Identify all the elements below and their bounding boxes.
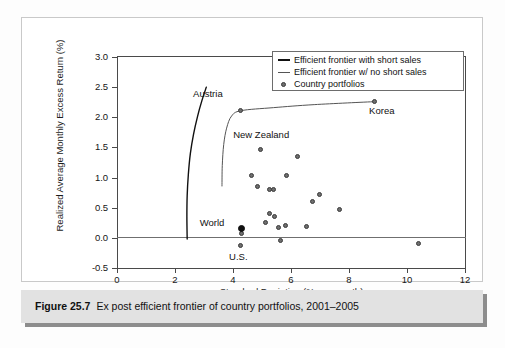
- x-axis-tick-label: 12: [453, 274, 477, 285]
- legend-item-frontier_short_sales: Efficient frontier with short sales: [277, 54, 459, 66]
- chart-panel: -0.50.00.51.01.52.02.53.0 024681012 Stan…: [21, 17, 483, 282]
- point-annotation: World: [200, 217, 225, 228]
- x-axis-tick-label: 2: [163, 274, 187, 285]
- y-axis-tick-label: 0.0: [78, 232, 108, 243]
- x-axis-tick: [349, 268, 350, 273]
- data-point-country: [238, 243, 243, 248]
- legend-item-country_portfolios: Country portfolios: [277, 78, 459, 90]
- data-point-country: [372, 99, 377, 104]
- chart-legend: Efficient frontier with short salesEffic…: [272, 51, 464, 91]
- line-thin-icon: [277, 72, 290, 73]
- data-point-country: [258, 147, 263, 152]
- x-axis-tick: [175, 268, 176, 273]
- y-axis-tick-label: 1.5: [78, 141, 108, 152]
- data-point-country: [278, 238, 283, 243]
- figure-caption-text: Ex post efficient frontier of country po…: [96, 300, 358, 312]
- y-axis-tick-label: 2.0: [78, 111, 108, 122]
- x-axis-tick-label: 6: [279, 274, 303, 285]
- x-axis-tick: [291, 268, 292, 273]
- data-point-country: [295, 154, 300, 159]
- y-axis-tick-label: 1.0: [78, 172, 108, 183]
- x-axis-tick: [465, 268, 466, 273]
- legend-label: Country portfolios: [294, 79, 365, 89]
- point-annotation: New Zealand: [233, 129, 289, 140]
- y-axis-tick-label: 2.5: [78, 81, 108, 92]
- data-point-country: [304, 224, 309, 229]
- legend-label: Efficient frontier with short sales: [294, 55, 421, 65]
- data-point-world: [238, 225, 245, 232]
- y-axis-tick-label: 0.5: [78, 202, 108, 213]
- figure-number: Figure 25.7: [35, 300, 90, 312]
- x-axis-tick-label: 10: [395, 274, 419, 285]
- x-axis-tick: [233, 268, 234, 273]
- data-point-country: [238, 108, 243, 113]
- x-axis-tick: [407, 268, 408, 273]
- dot-marker-icon: [277, 82, 290, 87]
- x-axis-tick-label: 0: [105, 274, 129, 285]
- x-axis-tick: [117, 268, 118, 273]
- data-point-country: [337, 207, 342, 212]
- x-axis-tick-label: 8: [337, 274, 361, 285]
- x-axis-tick-label: 4: [221, 274, 245, 285]
- figure-caption: Figure 25.7Ex post efficient frontier of…: [35, 300, 359, 312]
- line-thick-icon: [277, 59, 290, 61]
- frontier-curve: [222, 102, 375, 186]
- data-point-country: [276, 225, 281, 230]
- data-point-country: [416, 241, 421, 246]
- y-axis-tick-label: 3.0: [78, 51, 108, 62]
- caption-shadow-bottom: [25, 323, 487, 327]
- point-annotation: U.S.: [229, 251, 247, 262]
- y-axis-tick-label: -0.5: [78, 262, 108, 273]
- data-point-country: [255, 184, 260, 189]
- point-annotation: Austria: [193, 88, 223, 99]
- data-point-country: [283, 223, 288, 228]
- y-axis-title: Realized Average Monthly Excess Return (…: [54, 26, 65, 246]
- legend-item-frontier_no_short_sales: Efficient frontier w/ no short sales: [277, 66, 459, 78]
- legend-label: Efficient frontier w/ no short sales: [294, 67, 426, 77]
- point-annotation: Korea: [369, 105, 394, 116]
- figure-root: -0.50.00.51.01.52.02.53.0 024681012 Stan…: [0, 0, 505, 348]
